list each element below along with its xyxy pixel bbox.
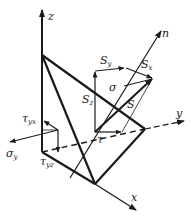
sy-vector [95, 68, 124, 71]
n-axis-label: n [162, 27, 169, 40]
sigma-label: σ [109, 81, 117, 94]
sz-label: Sz [82, 93, 94, 107]
tau-yx-label: τyx [22, 112, 36, 126]
sy-label: Sy [100, 54, 113, 68]
sigma-y-label: σy [6, 147, 19, 161]
x-axis [95, 184, 136, 210]
sigma-y-vector [10, 130, 58, 142]
y-axis-label: y [175, 107, 183, 120]
x-axis-label: x [131, 191, 138, 204]
stress-tetrahedron-diagram: z y x n Sy Sx Sz σ S τ τyx σy τyz [0, 0, 191, 220]
y-axis [145, 121, 184, 129]
sx-label: Sx [141, 58, 153, 72]
tetrahedron [42, 55, 145, 184]
tau-yx-vector [44, 121, 58, 130]
s-label: S [127, 98, 135, 111]
z-axis-label: z [47, 10, 54, 23]
tau-label: τ [97, 133, 104, 146]
s-vector [95, 79, 152, 132]
